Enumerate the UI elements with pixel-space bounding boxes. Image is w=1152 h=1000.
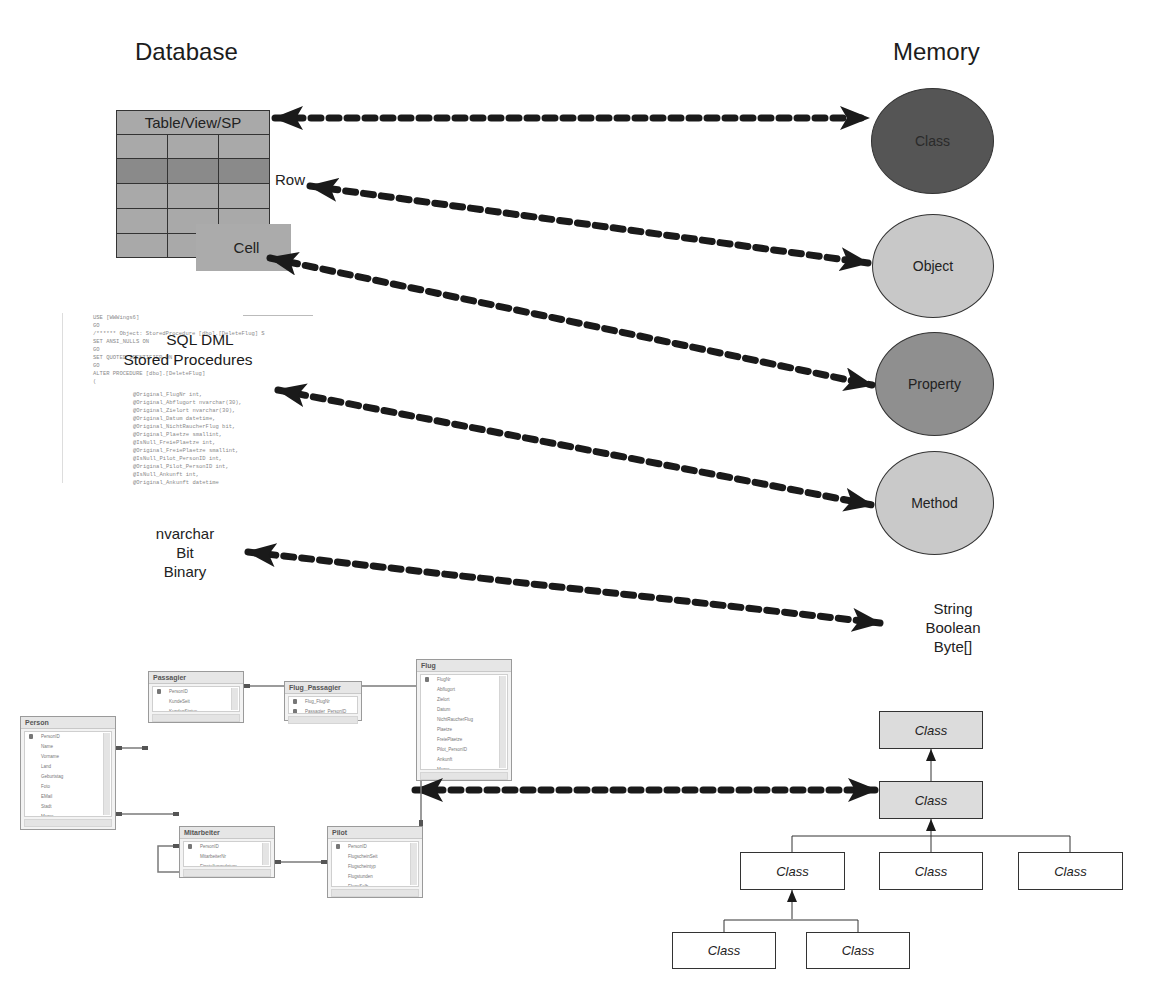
db-col-divider — [167, 134, 168, 257]
arrow-cell-property — [270, 258, 872, 385]
type-nvarchar: nvarchar — [140, 524, 230, 543]
er-column: Ankunft — [421, 755, 507, 765]
type-byte-array: Byte[] — [908, 637, 998, 656]
code-line: @Original_Plaetze smallint, — [133, 431, 222, 438]
class-box-middle: Class — [879, 781, 983, 819]
key-icon — [293, 699, 297, 704]
er-table-passagier: Passagier PersonID KundeSeit KundenStatu… — [148, 671, 244, 723]
er-column: Memo — [25, 812, 111, 817]
er-column: Flugscheintyp — [332, 862, 418, 872]
er-column: PersonID — [200, 844, 219, 849]
code-line: @Original_NichtRaucherFlug bit, — [133, 423, 235, 430]
er-column: Abflugort — [421, 685, 507, 695]
stored-procedures-label: Stored Procedures — [98, 351, 278, 369]
horizontal-scrollbar[interactable] — [331, 889, 419, 897]
code-line: @IsNull_Ankunft int, — [133, 471, 199, 478]
horizontal-scrollbar[interactable] — [420, 772, 508, 780]
er-column: FlugscheinSeit — [332, 852, 418, 862]
key-icon — [188, 844, 192, 849]
db-table-title: Table/View/SP — [117, 111, 269, 135]
arrow-types — [248, 552, 880, 623]
property-ellipse: Property — [875, 332, 994, 436]
horizontal-scrollbar[interactable] — [24, 819, 112, 827]
property-label: Property — [908, 376, 961, 392]
code-line: @Original_Ankunft datetime — [133, 479, 219, 486]
object-label: Object — [913, 258, 953, 274]
method-label: Method — [911, 495, 958, 511]
key-icon — [336, 844, 340, 849]
code-line: @IsNull_FreiePlaetze int, — [133, 439, 216, 446]
code-line: @Original_Abflugort nvarchar(30), — [133, 399, 242, 406]
key-icon — [293, 709, 297, 714]
er-column: FlugeSelb — [332, 882, 418, 887]
sql-dml-label: SQL DML — [145, 331, 255, 349]
type-binary: Binary — [140, 562, 230, 581]
vertical-scrollbar[interactable] — [231, 688, 238, 710]
code-line: @IsNull_Pilot_PersonID int, — [133, 455, 222, 462]
er-table-title: Passagier — [149, 672, 243, 684]
vertical-scrollbar[interactable] — [499, 676, 506, 768]
horizontal-scrollbar[interactable] — [183, 869, 271, 877]
arrow-row-object — [310, 186, 868, 263]
vertical-scrollbar[interactable] — [410, 843, 417, 885]
code-line: ( — [93, 378, 96, 385]
er-table-person: Person PersonID Name Vorname Land Geburt… — [20, 716, 116, 830]
er-column: FlugNr — [437, 677, 451, 682]
type-boolean: Boolean — [908, 618, 998, 637]
er-column: FreiePlaetze — [421, 735, 507, 745]
type-string: String — [908, 599, 998, 618]
er-column: Datum — [421, 705, 507, 715]
er-column: NichtRaucherFlug — [421, 715, 507, 725]
er-table-flug-passagier: Flug_Passagier Flug_FlugNr Passagier_Per… — [284, 681, 362, 721]
code-line: ALTER PROCEDURE [dbo].[DeleteFlug] — [93, 370, 205, 377]
net-types-label: String Boolean Byte[] — [908, 599, 998, 656]
er-column: PersonID — [348, 844, 367, 849]
er-column: Plaetze — [421, 725, 507, 735]
class-box-child: Class — [740, 852, 845, 890]
db-cell-box: Cell — [196, 224, 291, 271]
class-box-child: Class — [879, 852, 983, 890]
object-ellipse: Object — [872, 214, 994, 318]
horizontal-scrollbar[interactable] — [288, 716, 358, 724]
key-icon — [425, 677, 429, 682]
vertical-scrollbar[interactable] — [262, 843, 269, 865]
er-column: Flugstunden — [332, 872, 418, 882]
er-column: Vorname — [25, 752, 111, 762]
class-box-child: Class — [1018, 852, 1123, 890]
code-line: @Original_Zielort nvarchar(30), — [133, 407, 235, 414]
code-line: @Original_FreiePlaetze smallint, — [133, 447, 239, 454]
code-line: SET ANSI_NULLS ON — [93, 338, 149, 345]
class-box-grandchild: Class — [806, 932, 910, 969]
er-column: Name — [25, 742, 111, 752]
inheritance-arrow-icon — [926, 749, 936, 761]
er-table-title: Person — [21, 717, 115, 729]
er-column: Passagier_PersonID — [305, 709, 346, 714]
er-column: Zielort — [421, 695, 507, 705]
er-column: EMail — [25, 792, 111, 802]
db-row — [117, 134, 269, 159]
er-table-flug: Flug FlugNr Abflugort Zielort Datum Nich… — [416, 659, 512, 781]
er-column: KundeSeit — [153, 697, 239, 707]
horizontal-scrollbar[interactable] — [152, 714, 240, 722]
type-bit: Bit — [140, 543, 230, 562]
code-line: @Original_Datum datetime, — [133, 415, 216, 422]
class-box-grandchild: Class — [672, 932, 776, 969]
vertical-scrollbar[interactable] — [103, 733, 110, 815]
class-box-root: Class — [879, 711, 983, 749]
arrow-sql-method — [278, 390, 872, 505]
er-column: KundenStatus — [153, 707, 239, 712]
inheritance-arrow-icon — [926, 819, 936, 831]
er-column: Geburtstag — [25, 772, 111, 782]
er-table-title: Mitarbeiter — [180, 827, 274, 839]
code-line: @Original_FlugNr int, — [133, 391, 202, 398]
db-row-highlighted — [117, 159, 269, 184]
database-heading: Database — [135, 38, 238, 66]
er-column: Flug_FlugNr — [305, 699, 330, 704]
er-column: PersonID — [169, 689, 188, 694]
er-table-mitarbeiter: Mitarbeiter PersonID MitarbeiterNr Einst… — [179, 826, 275, 878]
key-icon — [157, 689, 161, 694]
method-ellipse: Method — [875, 451, 994, 555]
class-label: Class — [915, 133, 950, 149]
db-row-label: Row — [275, 171, 305, 188]
divider — [243, 315, 313, 316]
